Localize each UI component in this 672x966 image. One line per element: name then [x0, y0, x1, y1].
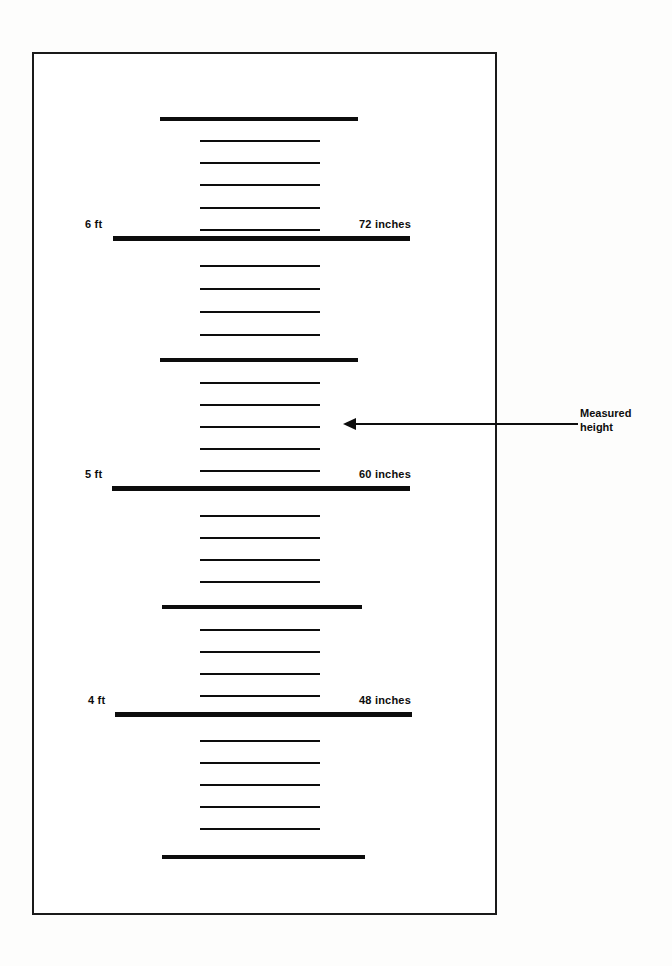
- ruler-figure: 6 ft 72 inches 5 ft 60 inches 4 ft 48 in…: [0, 0, 672, 966]
- ruler-tick-64-inches: [200, 404, 320, 406]
- ruler-tick-44-inches: [200, 806, 320, 808]
- label-72-inches: 72 inches: [321, 218, 411, 230]
- measured-height-caption: Measured height: [580, 406, 631, 434]
- ruler-tick-43-inches: [200, 828, 320, 830]
- ruler-tick-50-inches: [200, 695, 320, 697]
- ruler-tick-47-inches: [200, 740, 320, 742]
- ruler-tick-66-inches: [160, 358, 358, 362]
- ruler-tick-61-inches: [200, 470, 320, 472]
- ruler-tick-65-inches: [200, 382, 320, 384]
- ruler-tick-60-inches: [112, 486, 410, 491]
- ruler-tick-48-inches: [115, 712, 412, 717]
- ruler-tick-51-inches: [200, 673, 320, 675]
- ruler-tick-76-inches: [200, 162, 320, 164]
- ruler-tick-78-inches: [160, 117, 358, 121]
- label-4-ft: 4 ft: [88, 694, 105, 706]
- ruler-tick-62-inches: [200, 448, 320, 450]
- ruler-tick-58-inches: [200, 537, 320, 539]
- ruler-tick-54-inches: [162, 605, 362, 609]
- ruler-tick-63-inches: [200, 426, 320, 428]
- ruler-tick-53-inches: [200, 629, 320, 631]
- ruler-tick-69-inches: [200, 311, 320, 313]
- ruler-tick-57-inches: [200, 559, 320, 561]
- ruler-tick-77-inches: [200, 140, 320, 142]
- label-48-inches: 48 inches: [321, 694, 411, 706]
- measured-height-arrow-head-icon: [343, 418, 356, 430]
- ruler-tick-72-inches: [113, 236, 410, 241]
- ruler-tick-71-inches: [200, 265, 320, 267]
- ruler-tick-56-inches: [200, 581, 320, 583]
- measured-height-caption-line-2: height: [580, 420, 631, 434]
- ruler-tick-74-inches: [200, 207, 320, 209]
- ruler-tick-42-inches: [162, 855, 365, 859]
- ruler-tick-52-inches: [200, 651, 320, 653]
- ruler-tick-45-inches: [200, 784, 320, 786]
- ruler-tick-59-inches: [200, 515, 320, 517]
- ruler-tick-68-inches: [200, 334, 320, 336]
- ruler-tick-73-inches: [200, 229, 320, 231]
- measured-height-caption-line-1: Measured: [580, 406, 631, 420]
- label-6-ft: 6 ft: [85, 218, 102, 230]
- ruler-tick-75-inches: [200, 184, 320, 186]
- label-60-inches: 60 inches: [321, 468, 411, 480]
- ruler-tick-70-inches: [200, 288, 320, 290]
- ruler-tick-46-inches: [200, 762, 320, 764]
- label-5-ft: 5 ft: [85, 468, 102, 480]
- measured-height-arrow-shaft: [353, 423, 578, 425]
